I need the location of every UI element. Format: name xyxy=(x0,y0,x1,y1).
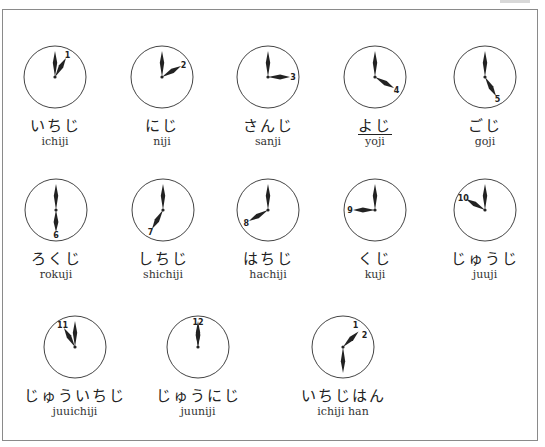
clock-pivot xyxy=(373,75,376,78)
hour-numeral: 2 xyxy=(181,61,187,70)
hour-numeral: 6 xyxy=(53,231,59,240)
kana-label: いちじ xyxy=(0,117,115,135)
romaji-label: yoji xyxy=(315,135,435,148)
clock-grid: 12345678910111212 xyxy=(0,0,545,447)
clock-pivot xyxy=(160,75,163,78)
minute-hand xyxy=(483,184,487,210)
kana-label: じゅういちじ xyxy=(15,387,135,405)
kana-label: しちじ xyxy=(103,250,223,268)
kana-label: にじ xyxy=(102,117,222,135)
clock-8: 8 xyxy=(237,179,299,241)
hour-hand xyxy=(54,210,59,232)
clock-pivot xyxy=(73,345,76,348)
romaji-label: ichiji han xyxy=(283,405,403,418)
clock-11: 11 xyxy=(44,316,106,378)
minute-hand xyxy=(483,51,487,77)
clock-9: 9 xyxy=(344,179,406,241)
kana-label: じゅうにじ xyxy=(138,387,258,405)
kana-label: さんじ xyxy=(208,117,328,135)
clock-pivot xyxy=(266,208,269,211)
hour-numeral: 4 xyxy=(394,86,400,95)
minute-hand xyxy=(373,184,377,210)
clock-label-1: いちじichiji xyxy=(0,117,115,148)
clock-2: 2 xyxy=(131,46,193,108)
clock-label-6: ろくじrokuji xyxy=(0,250,116,281)
kana-label: いちじはん xyxy=(283,387,403,405)
kana-label: ごじ xyxy=(425,117,545,135)
hour-hand xyxy=(353,208,375,213)
hour-numeral-2: 2 xyxy=(362,331,368,340)
hour-hand xyxy=(249,210,268,221)
romaji-label: juuichiji xyxy=(15,405,135,418)
minute-hand xyxy=(160,51,164,77)
hour-hand xyxy=(375,77,394,88)
clock-label-5: ごじgoji xyxy=(425,117,545,148)
minute-hand xyxy=(54,184,58,210)
romaji-label: shichiji xyxy=(103,268,223,281)
clock-1: 1 xyxy=(24,46,86,108)
hour-numeral: 1 xyxy=(353,321,359,330)
kana-label: くじ xyxy=(315,250,435,268)
romaji-label: sanji xyxy=(208,135,328,148)
clock-13: 12 xyxy=(312,316,374,378)
clock-5: 5 xyxy=(454,46,516,108)
clock-pivot xyxy=(341,345,344,348)
clock-label-9: くじkuji xyxy=(315,250,435,281)
clock-label-2: にじniji xyxy=(102,117,222,148)
hour-hand xyxy=(196,325,201,347)
hour-numeral: 7 xyxy=(148,228,154,237)
romaji-label: niji xyxy=(102,135,222,148)
romaji-label: juuji xyxy=(425,268,545,281)
kana-label: じゅうじ xyxy=(425,250,545,268)
hour-numeral: 10 xyxy=(458,194,470,203)
hour-numeral: 5 xyxy=(495,95,501,104)
clock-12: 12 xyxy=(167,316,229,378)
hour-hand xyxy=(343,331,359,347)
hour-numeral: 3 xyxy=(290,73,296,82)
minute-hand xyxy=(266,51,270,77)
clock-pivot xyxy=(373,208,376,211)
romaji-label: rokuji xyxy=(0,268,116,281)
clock-pivot xyxy=(483,75,486,78)
minute-hand xyxy=(161,184,165,210)
romaji-label: kuji xyxy=(315,268,435,281)
hour-numeral: 8 xyxy=(244,219,250,228)
kana-label: よじ xyxy=(315,117,435,135)
clock-4: 4 xyxy=(344,46,406,108)
hour-hand xyxy=(268,75,290,80)
kana-label: はちじ xyxy=(208,250,328,268)
clock-label-3: さんじsanji xyxy=(208,117,328,148)
hour-numeral: 12 xyxy=(192,318,203,327)
clock-10: 10 xyxy=(454,179,516,241)
clock-pivot xyxy=(161,208,164,211)
minute-hand xyxy=(266,184,270,210)
hour-hand xyxy=(152,210,163,229)
kana-label: ろくじ xyxy=(0,250,116,268)
clock-pivot xyxy=(483,208,486,211)
clock-label-11: じゅういちじjuuichiji xyxy=(15,387,135,418)
clock-6: 6 xyxy=(25,179,87,241)
hour-numeral: 9 xyxy=(347,206,353,215)
clock-label-8: はちじhachiji xyxy=(208,250,328,281)
hour-numeral: 11 xyxy=(57,321,69,330)
clock-label-12: じゅうにじjuuniji xyxy=(138,387,258,418)
clock-label-13: いちじはんichiji han xyxy=(283,387,403,418)
clock-3: 3 xyxy=(237,46,299,108)
clock-label-10: じゅうじjuuji xyxy=(425,250,545,281)
romaji-label: juuniji xyxy=(138,405,258,418)
hour-hand xyxy=(485,77,496,96)
romaji-label: hachiji xyxy=(208,268,328,281)
clock-pivot xyxy=(266,75,269,78)
minute-hand xyxy=(341,347,345,373)
romaji-label: ichiji xyxy=(0,135,115,148)
clock-7: 7 xyxy=(132,179,194,241)
minute-hand xyxy=(373,51,377,77)
romaji-label: goji xyxy=(425,135,545,148)
clock-label-7: しちじshichiji xyxy=(103,250,223,281)
hour-hand xyxy=(162,66,181,77)
clock-pivot xyxy=(54,208,57,211)
hour-numeral: 1 xyxy=(65,51,71,60)
clock-pivot xyxy=(196,345,199,348)
clock-label-4: よじyoji xyxy=(315,117,435,148)
clock-pivot xyxy=(53,75,56,78)
